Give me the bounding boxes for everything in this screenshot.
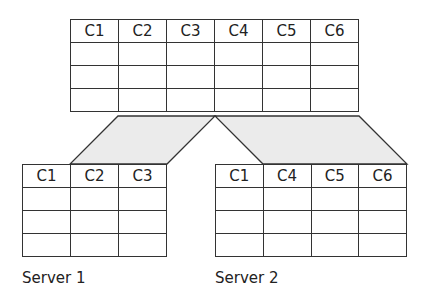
column-header: C5 bbox=[311, 165, 359, 188]
cell bbox=[23, 211, 71, 234]
cell bbox=[311, 188, 359, 211]
cell bbox=[23, 188, 71, 211]
cell bbox=[263, 234, 311, 257]
column-header: C1 bbox=[216, 165, 264, 188]
cell bbox=[119, 211, 167, 234]
cell bbox=[311, 211, 359, 234]
server-1-table: C1 C2 C3 bbox=[22, 164, 167, 257]
table-row bbox=[216, 234, 407, 257]
table-row bbox=[23, 211, 167, 234]
cell bbox=[263, 66, 311, 89]
column-header: C1 bbox=[71, 20, 119, 43]
column-header: C2 bbox=[119, 20, 167, 43]
cell bbox=[167, 43, 215, 66]
cell bbox=[263, 188, 311, 211]
cell bbox=[71, 66, 119, 89]
cell bbox=[311, 43, 359, 66]
cell bbox=[263, 43, 311, 66]
cell bbox=[216, 188, 264, 211]
table-row bbox=[23, 234, 167, 257]
column-header: C3 bbox=[119, 165, 167, 188]
cell bbox=[71, 89, 119, 112]
column-header: C6 bbox=[311, 20, 359, 43]
column-header: C2 bbox=[71, 165, 119, 188]
header-row: C1 C2 C3 bbox=[23, 165, 167, 188]
header-row: C1 C4 C5 C6 bbox=[216, 165, 407, 188]
cell bbox=[359, 188, 407, 211]
column-header: C5 bbox=[263, 20, 311, 43]
connector-server-2 bbox=[215, 116, 407, 164]
server-2-label: Server 2 bbox=[215, 269, 279, 287]
cell bbox=[359, 211, 407, 234]
server-1-label: Server 1 bbox=[22, 269, 86, 287]
cell bbox=[119, 43, 167, 66]
cell bbox=[359, 234, 407, 257]
cell bbox=[119, 188, 167, 211]
cell bbox=[216, 234, 264, 257]
cell bbox=[263, 89, 311, 112]
column-header: C4 bbox=[263, 165, 311, 188]
column-header: C4 bbox=[215, 20, 263, 43]
source-table: C1 C2 C3 C4 C5 C6 bbox=[70, 19, 359, 112]
cell bbox=[215, 89, 263, 112]
cell bbox=[263, 211, 311, 234]
cell bbox=[167, 66, 215, 89]
cell bbox=[311, 89, 359, 112]
column-header: C3 bbox=[167, 20, 215, 43]
cell bbox=[119, 89, 167, 112]
header-row: C1 C2 C3 C4 C5 C6 bbox=[71, 20, 359, 43]
table-row bbox=[216, 211, 407, 234]
cell bbox=[119, 66, 167, 89]
cell bbox=[215, 43, 263, 66]
table-row bbox=[71, 89, 359, 112]
cell bbox=[215, 66, 263, 89]
cell bbox=[311, 234, 359, 257]
table-row bbox=[71, 43, 359, 66]
table-row bbox=[216, 188, 407, 211]
table-row bbox=[71, 66, 359, 89]
cell bbox=[311, 66, 359, 89]
cell bbox=[71, 188, 119, 211]
cell bbox=[71, 234, 119, 257]
column-header: C6 bbox=[359, 165, 407, 188]
table-row bbox=[23, 188, 167, 211]
cell bbox=[119, 234, 167, 257]
cell bbox=[167, 89, 215, 112]
cell bbox=[71, 43, 119, 66]
cell bbox=[71, 211, 119, 234]
column-header: C1 bbox=[23, 165, 71, 188]
cell bbox=[216, 211, 264, 234]
server-2-table: C1 C4 C5 C6 bbox=[215, 164, 407, 257]
connector-server-1 bbox=[70, 116, 215, 164]
cell bbox=[23, 234, 71, 257]
